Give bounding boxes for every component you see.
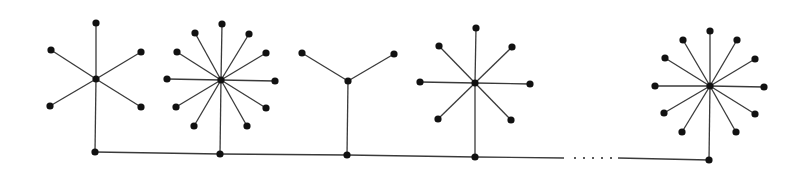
spine-edge [475, 157, 564, 158]
star-leaf-edge [710, 86, 736, 132]
leaf-node [508, 43, 515, 50]
star-leaf-edge [475, 83, 511, 120]
star-center-node [344, 77, 351, 84]
leaf-node [92, 19, 99, 26]
leaf-node [733, 36, 740, 43]
leaf-node [163, 75, 170, 82]
leaf-node [435, 42, 442, 49]
star-stem-edge [347, 81, 348, 155]
star-leaf-edge [221, 34, 249, 80]
star-leaf-edge [96, 52, 141, 79]
leaf-node [262, 49, 269, 56]
spine-edge [95, 152, 220, 154]
leaf-node [507, 116, 514, 123]
leaf-node [47, 46, 54, 53]
star-leaf-edge [475, 28, 476, 83]
star-center-node [217, 76, 224, 83]
star-leaf-edge [664, 86, 710, 113]
star-leaf-edge [176, 80, 221, 107]
ellipsis-dot [610, 157, 612, 159]
star-leaf-edge [710, 86, 755, 114]
leaf-node [298, 49, 305, 56]
star-leaf-edge [348, 54, 394, 81]
star-leaf-edge [195, 33, 221, 80]
leaf-node [678, 128, 685, 135]
star-leaf-edge [194, 80, 221, 126]
spine-node [471, 153, 478, 160]
star-leaf-edge [302, 53, 348, 81]
star-stem-edge [220, 80, 221, 154]
star-leaf-edge [221, 53, 266, 80]
spine-edge [220, 154, 347, 155]
star-leaf-edge [50, 79, 96, 106]
ellipsis-dot [601, 157, 603, 159]
leaf-node [651, 82, 658, 89]
star-stem-edge [95, 79, 96, 152]
leaf-node [679, 36, 686, 43]
star-leaf-edge [221, 80, 247, 126]
leaf-node [218, 20, 225, 27]
star-leaf-edge [665, 58, 710, 86]
leaf-node [271, 77, 278, 84]
star-leaf-edge [420, 82, 475, 83]
ellipsis-dot [592, 157, 594, 159]
spine-edge [347, 155, 475, 157]
leaf-node [526, 80, 533, 87]
star-center-node [471, 79, 478, 86]
star-leaf-edge [221, 80, 266, 108]
leaf-node [390, 50, 397, 57]
leaf-node [434, 115, 441, 122]
leaf-node [137, 103, 144, 110]
star-center-node [92, 75, 99, 82]
leaf-node [732, 128, 739, 135]
spine-ellipsis [574, 157, 612, 159]
star-stem-edge [709, 86, 710, 160]
star-leaf-edge [710, 86, 764, 87]
edges-layer [50, 23, 764, 160]
spine-node [343, 151, 350, 158]
star-leaf-edge [683, 40, 710, 86]
star-leaf-edge [710, 59, 755, 86]
leaf-node [191, 29, 198, 36]
ellipsis-dot [574, 157, 576, 159]
leaf-node [760, 83, 767, 90]
star-leaf-edge [177, 52, 221, 80]
leaf-node [472, 24, 479, 31]
leaf-node [190, 122, 197, 129]
nodes-layer [46, 19, 767, 163]
star-center-node [706, 82, 713, 89]
caterpillar-tree-diagram [0, 0, 804, 170]
star-leaf-edge [167, 79, 221, 80]
leaf-node [660, 109, 667, 116]
star-leaf-edge [96, 79, 141, 107]
spine-node [91, 148, 98, 155]
leaf-node [661, 54, 668, 61]
leaf-node [751, 55, 758, 62]
spine-node [705, 156, 712, 163]
leaf-node [137, 48, 144, 55]
leaf-node [751, 110, 758, 117]
star-leaf-edge [682, 86, 710, 132]
spine-node [216, 150, 223, 157]
star-leaf-edge [51, 50, 96, 79]
leaf-node [172, 103, 179, 110]
star-leaf-edge [221, 24, 222, 80]
ellipsis-dot [583, 157, 585, 159]
star-leaf-edge [439, 46, 475, 83]
leaf-node [262, 104, 269, 111]
star-leaf-edge [475, 47, 512, 83]
leaf-node [243, 122, 250, 129]
leaf-node [706, 27, 713, 34]
star-leaf-edge [475, 83, 530, 84]
spine-edge [618, 158, 709, 160]
leaf-node [416, 78, 423, 85]
leaf-node [245, 30, 252, 37]
leaf-node [46, 102, 53, 109]
star-leaf-edge [221, 80, 275, 81]
star-leaf-edge [438, 83, 475, 119]
star-leaf-edge [710, 40, 737, 86]
leaf-node [173, 48, 180, 55]
